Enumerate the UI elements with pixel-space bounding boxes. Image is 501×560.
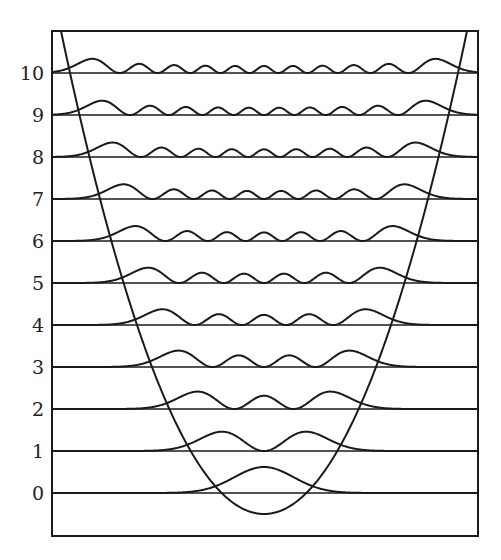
level-label: 9	[32, 104, 44, 126]
level-label: 5	[32, 272, 44, 294]
probability-density-curve	[52, 392, 478, 409]
probability-density-curve	[52, 143, 478, 157]
probability-density-curve	[52, 226, 478, 241]
level-labels: 012345678910	[20, 62, 44, 504]
probability-density-curve	[52, 432, 478, 451]
level-label: 6	[32, 230, 44, 252]
harmonic-oscillator-diagram: 012345678910	[0, 0, 501, 560]
probability-density-curve	[52, 467, 478, 493]
level-label: 0	[32, 482, 44, 504]
level-label: 8	[32, 146, 44, 168]
level-label: 7	[32, 188, 44, 210]
level-label: 4	[32, 314, 44, 336]
probability-density-curve	[52, 351, 478, 367]
probability-density-curve	[52, 59, 478, 73]
level-label: 2	[32, 398, 44, 420]
probability-densities	[52, 59, 478, 493]
probability-density-curve	[52, 184, 478, 199]
probability-density-curve	[52, 268, 478, 283]
probability-density-curve	[52, 101, 478, 115]
level-label: 3	[32, 356, 44, 378]
level-label: 10	[20, 62, 44, 84]
potential-parabola	[61, 31, 467, 514]
level-label: 1	[32, 440, 44, 462]
probability-density-curve	[52, 309, 478, 325]
